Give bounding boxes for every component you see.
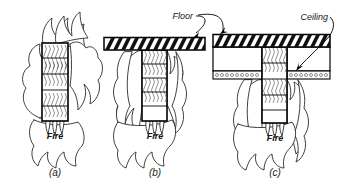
ceiling-right <box>287 71 330 79</box>
ceiling-label: Ceiling <box>300 12 328 22</box>
floor-label: Floor <box>172 11 194 21</box>
caption-b: (b) <box>149 167 161 178</box>
panel-a: Fire (a) <box>23 12 103 178</box>
caption-a: (a) <box>49 167 61 178</box>
column-body <box>142 50 167 121</box>
panel-b: Fire (b) <box>104 34 213 178</box>
cavity-left <box>213 47 262 71</box>
flame-shape <box>114 120 176 168</box>
fire-exposure-figure: Fire (a) <box>0 0 338 188</box>
fire-label-a: Fire <box>47 131 64 141</box>
column-b <box>142 50 167 121</box>
flame-shape <box>234 122 296 170</box>
column-body <box>262 47 287 123</box>
fire-label-b: Fire <box>147 131 164 141</box>
fire-label-c: Fire <box>267 133 284 143</box>
cavity-right <box>287 47 330 71</box>
diagram-canvas: Fire (a) <box>0 0 338 188</box>
flame-shape <box>70 42 103 110</box>
column-c <box>262 47 287 123</box>
caption-c: (c) <box>269 167 281 178</box>
panel-c: Fire (c) <box>213 31 338 178</box>
column-a <box>42 43 68 121</box>
